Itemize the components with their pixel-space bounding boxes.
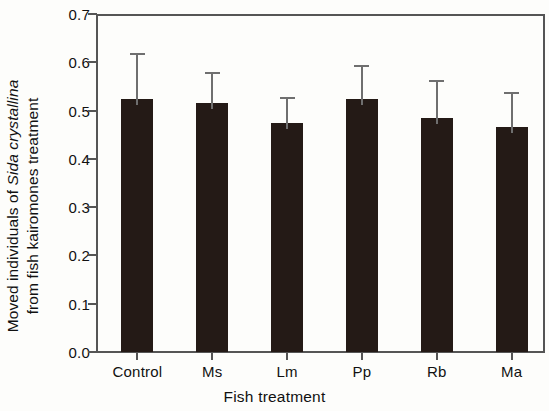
- y-tick-label: 0.7: [50, 7, 90, 22]
- error-bar-cap: [280, 97, 295, 99]
- y-tick-label: 0.2: [50, 248, 90, 263]
- x-axis-category-label: Pp: [353, 364, 372, 380]
- error-bar-cap: [130, 53, 145, 55]
- bar: [121, 99, 153, 353]
- y-axis-title-line1: Moved individuals of Sida crystallina: [3, 79, 23, 332]
- bar-chart: Moved individuals of Sida crystallina fr…: [0, 0, 549, 411]
- y-axis-tick-labels: 0.7 0.6 0.5 0.4 0.3 0.2 0.1 0.0: [48, 0, 90, 411]
- x-axis-category-label: Control: [113, 364, 163, 380]
- error-bar-cap: [504, 92, 519, 94]
- x-axis-category-label: Ma: [501, 364, 522, 380]
- error-bar: [136, 55, 138, 104]
- x-tick-mark: [286, 352, 288, 360]
- y-axis-title-species: Sida crystallina: [4, 79, 21, 185]
- y-axis-title: Moved individuals of Sida crystallina fr…: [0, 0, 46, 411]
- x-axis-title: Fish treatment: [0, 388, 549, 406]
- bar: [196, 103, 228, 352]
- error-bar: [436, 82, 438, 124]
- y-axis-title-line1-text: Moved individuals of: [4, 185, 21, 332]
- y-tick-label: 0.5: [50, 103, 90, 118]
- x-axis-category-label: Ms: [202, 364, 222, 380]
- x-tick-mark: [511, 352, 513, 360]
- x-axis-category-label: Lm: [276, 364, 297, 380]
- error-bar-cap: [205, 72, 220, 74]
- y-tick-label: 0.6: [50, 55, 90, 70]
- bars-layer: [96, 14, 545, 352]
- x-tick-mark: [361, 352, 363, 360]
- error-bar: [286, 99, 288, 129]
- error-bar: [511, 94, 513, 134]
- y-tick-label: 0.4: [50, 151, 90, 166]
- y-tick-label: 0.0: [50, 345, 90, 360]
- x-axis-category-label: Rb: [427, 364, 447, 380]
- x-tick-mark: [136, 352, 138, 360]
- bar: [271, 123, 303, 352]
- bar: [421, 118, 453, 352]
- error-bar-cap: [354, 65, 369, 67]
- x-tick-mark: [211, 352, 213, 360]
- bar: [496, 127, 528, 352]
- bar: [346, 99, 378, 353]
- error-bar: [211, 74, 213, 109]
- y-tick-label: 0.3: [50, 200, 90, 215]
- error-bar-cap: [429, 80, 444, 82]
- y-axis-title-line2: from fish kairomones treatment: [23, 79, 43, 332]
- x-tick-mark: [436, 352, 438, 360]
- error-bar: [361, 67, 363, 104]
- y-tick-label: 0.1: [50, 296, 90, 311]
